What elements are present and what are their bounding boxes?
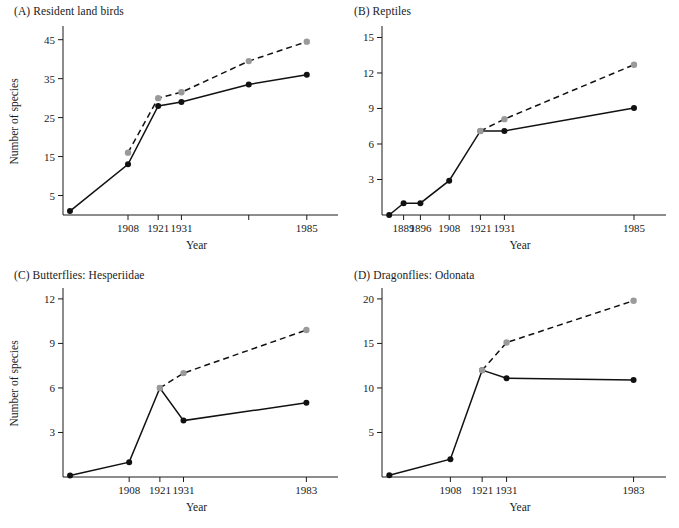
y-tick-label: 6 <box>50 382 56 394</box>
data-point-observed <box>447 456 453 462</box>
data-point-observed <box>501 128 507 134</box>
x-tick-label: 1931 <box>493 222 515 234</box>
data-point-estimated <box>155 95 161 101</box>
data-point-observed <box>401 200 407 206</box>
data-point-observed <box>304 72 310 78</box>
data-point-observed <box>631 105 637 111</box>
data-point-estimated <box>630 297 636 303</box>
y-tick-label: 5 <box>50 190 56 202</box>
x-tick-label: 1908 <box>438 222 461 234</box>
y-tick-label: 15 <box>363 31 375 43</box>
y-tick-label: 45 <box>44 34 56 46</box>
x-tick-label: 1908 <box>439 484 462 496</box>
x-tick-label: 1921 <box>471 484 493 496</box>
series-line-observed <box>389 370 633 475</box>
x-tick-label: 1931 <box>173 484 195 496</box>
data-point-observed <box>67 208 73 214</box>
data-point-estimated <box>157 385 163 391</box>
data-point-estimated <box>180 370 186 376</box>
series-line-observed <box>70 75 307 211</box>
series-line-estimated <box>482 301 633 370</box>
x-tick-label: 1921 <box>147 222 169 234</box>
y-tick-label: 15 <box>44 151 56 163</box>
data-point-estimated <box>304 38 310 44</box>
y-tick-label: 12 <box>44 293 55 305</box>
panel-c-plot: 369121908192119311983YearNumber of speci… <box>0 264 339 528</box>
data-point-observed <box>155 103 161 109</box>
data-point-estimated <box>178 89 184 95</box>
panel-a-resident-land-birds: (A) Resident land birds 5152535451908192… <box>0 0 339 264</box>
x-tick-label: 1985 <box>296 222 319 234</box>
data-point-observed <box>446 178 452 184</box>
y-tick-label: 25 <box>44 112 56 124</box>
data-point-estimated <box>125 149 131 155</box>
y-tick-label: 9 <box>50 337 56 349</box>
panel-a-plot: 5152535451908192119311985YearNumber of s… <box>0 0 339 264</box>
data-point-estimated <box>501 116 507 122</box>
y-tick-label: 12 <box>363 67 374 79</box>
y-tick-label: 20 <box>363 293 375 305</box>
x-tick-label: 1921 <box>149 484 171 496</box>
x-axis-title: Year <box>186 501 207 513</box>
panel-d-plot: 51015201908192119311983Year <box>340 264 679 528</box>
data-point-observed <box>181 418 187 424</box>
data-point-observed <box>67 473 73 479</box>
x-axis-title: Year <box>509 501 530 513</box>
y-axis-title: Number of species <box>8 78 21 165</box>
y-tick-label: 5 <box>369 426 375 438</box>
y-tick-label: 3 <box>50 426 56 438</box>
x-axis-title: Year <box>186 239 207 251</box>
y-tick-label: 6 <box>369 138 375 150</box>
data-point-estimated <box>477 128 483 134</box>
y-tick-label: 10 <box>363 382 375 394</box>
y-tick-label: 15 <box>363 337 375 349</box>
x-axis-title: Year <box>509 239 530 251</box>
y-tick-label: 35 <box>44 73 56 85</box>
y-tick-label: 3 <box>369 173 375 185</box>
data-point-estimated <box>479 367 485 373</box>
series-line-observed <box>389 108 634 215</box>
species-accumulation-figure: (A) Resident land birds 5152535451908192… <box>0 0 679 528</box>
x-tick-label: 1921 <box>469 222 491 234</box>
data-point-observed <box>178 99 184 105</box>
series-line-estimated <box>160 330 306 388</box>
x-tick-label: 1931 <box>496 484 518 496</box>
x-tick-label: 1908 <box>118 484 141 496</box>
series-line-estimated <box>128 42 307 153</box>
x-tick-label: 1983 <box>623 484 646 496</box>
data-point-estimated <box>246 58 252 64</box>
x-tick-label: 1931 <box>170 222 192 234</box>
data-point-observed <box>303 400 309 406</box>
data-point-observed <box>386 212 392 218</box>
x-tick-label: 1985 <box>623 222 646 234</box>
data-point-observed <box>386 472 392 478</box>
data-point-estimated <box>631 61 637 67</box>
panel-b-plot: 3691215188918961908192119311985Year <box>340 0 679 264</box>
data-point-observed <box>417 200 423 206</box>
y-tick-label: 9 <box>369 102 375 114</box>
data-point-observed <box>246 81 252 87</box>
series-line-observed <box>70 388 306 476</box>
x-tick-label: 1983 <box>295 484 318 496</box>
panel-d-dragonflies-odonata: (D) Dragonflies: Odonata 510152019081921… <box>340 264 679 528</box>
data-point-observed <box>125 161 131 167</box>
data-point-estimated <box>303 327 309 333</box>
panel-b-reptiles: (B) Reptiles 369121518891896190819211931… <box>340 0 679 264</box>
panel-c-butterflies-hesperiidae: (C) Butterflies: Hesperiidae 36912190819… <box>0 264 339 528</box>
x-tick-label: 1908 <box>117 222 140 234</box>
data-point-estimated <box>503 339 509 345</box>
y-axis-title: Number of species <box>8 340 21 427</box>
x-tick-label: 1896 <box>409 222 432 234</box>
data-point-observed <box>126 459 132 465</box>
data-point-observed <box>504 375 510 381</box>
data-point-observed <box>631 377 637 383</box>
